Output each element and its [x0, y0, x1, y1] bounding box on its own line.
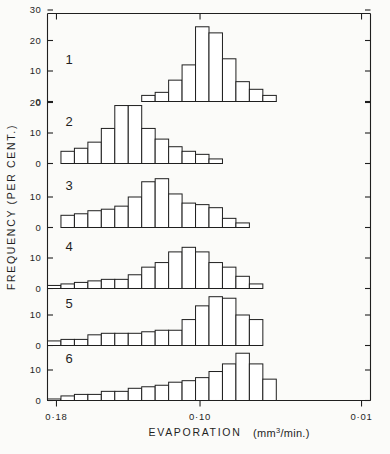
- histogram-bar: [142, 332, 155, 346]
- y-tick-label: 20: [30, 35, 42, 46]
- y-tick-label: 0: [36, 395, 42, 406]
- histogram-bar: [101, 128, 114, 163]
- histogram-bar: [263, 95, 276, 101]
- histogram-bar: [236, 223, 249, 228]
- histogram-bar: [249, 284, 262, 289]
- histogram-bar: [169, 330, 182, 345]
- histogram-bar: [115, 333, 128, 345]
- histogram-bar: [169, 252, 182, 289]
- histogram-bar: [88, 394, 101, 400]
- histogram-bar: [74, 394, 87, 400]
- histogram-bar: [101, 279, 114, 288]
- y-tick-label: 0: [36, 158, 42, 169]
- y-tick-label: 10: [30, 127, 42, 138]
- y-axis-title: FREQUENCY (PER CENT.): [5, 124, 17, 290]
- histogram-bar: [196, 252, 209, 289]
- histogram-bar: [88, 142, 101, 163]
- histogram-bar: [155, 92, 168, 101]
- histogram-bar: [142, 387, 155, 401]
- histogram-bar: [222, 218, 235, 227]
- histogram-bar: [74, 148, 87, 163]
- histogram-bar: [61, 151, 74, 163]
- histogram-bar: [182, 247, 195, 288]
- histogram-bar: [128, 275, 141, 289]
- histogram-bar: [169, 80, 182, 101]
- y-tick-label: 10: [30, 191, 42, 202]
- histogram-bar: [169, 194, 182, 228]
- y-tick-label: 10: [30, 252, 42, 263]
- y-tick-label: 30: [30, 4, 42, 15]
- histogram-bar: [196, 306, 209, 346]
- histogram-bar: [222, 298, 235, 345]
- panel-label-5: 5: [66, 296, 74, 311]
- panel-label-1: 1: [66, 52, 74, 67]
- histogram-bar: [101, 391, 114, 400]
- histogram-bar: [61, 396, 74, 401]
- histogram-bar: [88, 281, 101, 289]
- panel-label-3: 3: [66, 178, 74, 193]
- histogram-bar: [74, 339, 87, 345]
- x-tick-label: 0·18: [45, 411, 67, 422]
- y-tick-label: 10: [30, 364, 42, 375]
- histogram-bar: [61, 215, 74, 227]
- histogram-bar: [249, 320, 262, 346]
- histogram-bar: [169, 147, 182, 164]
- x-axis-title: EVAPORATION: [149, 426, 242, 438]
- histogram-bar: [209, 297, 222, 346]
- histogram-bar: [88, 211, 101, 228]
- histogram-bar: [142, 267, 155, 288]
- histogram-bar: [142, 128, 155, 163]
- histogram-bar: [88, 335, 101, 346]
- histogram-bar: [196, 154, 209, 163]
- x-axis-units: (mm3/min.): [253, 426, 310, 439]
- panel-label-2: 2: [66, 114, 74, 129]
- histogram-bar: [222, 364, 235, 401]
- y-tick-label: 10: [30, 309, 42, 320]
- histogram-bar: [236, 353, 249, 400]
- histogram-bar: [155, 385, 168, 400]
- histogram-bar: [222, 59, 235, 102]
- histogram-bar: [128, 197, 141, 228]
- histogram-bar: [155, 179, 168, 228]
- histogram-bar: [236, 82, 249, 102]
- histogram-bar: [222, 267, 235, 288]
- histogram-bar: [155, 263, 168, 289]
- histogram-bar: [101, 333, 114, 345]
- panel-label-4: 4: [66, 239, 74, 254]
- histogram-bar: [196, 27, 209, 102]
- histogram-bar: [236, 315, 249, 346]
- histogram-bar: [61, 339, 74, 345]
- histogram-bar: [128, 333, 141, 345]
- figure-container: 010203001020010010010010 0·180·100·01 12…: [0, 0, 390, 454]
- histogram-bar: [101, 209, 114, 227]
- histogram-bar: [236, 276, 249, 288]
- histogram-bar: [115, 279, 128, 288]
- histogram-bar: [182, 203, 195, 227]
- panel-label-6: 6: [66, 351, 74, 366]
- histogram-bar: [196, 378, 209, 401]
- x-tick-label: 0·10: [189, 411, 211, 422]
- y-tick-label: 20: [30, 97, 42, 108]
- y-tick-label: 0: [36, 283, 42, 294]
- histogram-bar: [209, 263, 222, 289]
- histogram-bar: [155, 139, 168, 163]
- histogram-bar: [61, 284, 74, 289]
- histogram-bar: [182, 381, 195, 401]
- histogram-bar: [249, 364, 262, 401]
- histogram-bar: [169, 382, 182, 400]
- histogram-bar: [249, 89, 262, 101]
- histogram-bar: [128, 106, 141, 164]
- histogram-bar: [196, 205, 209, 228]
- histogram-bar: [142, 182, 155, 228]
- histogram-bar: [115, 391, 128, 400]
- histogram-bar: [155, 330, 168, 345]
- histogram-bar: [209, 159, 222, 164]
- histogram-bar: [48, 341, 61, 346]
- histogram-bar: [128, 388, 141, 400]
- histogram-bar: [74, 214, 87, 228]
- y-tick-label: 0: [36, 340, 42, 351]
- histogram-bar: [209, 33, 222, 102]
- y-tick-label: 0: [36, 222, 42, 233]
- histogram-chart: 010203001020010010010010 0·180·100·01 12…: [0, 0, 390, 454]
- histogram-bar: [263, 379, 276, 400]
